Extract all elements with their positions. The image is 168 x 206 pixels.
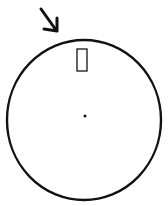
- center-dot: [84, 115, 87, 118]
- diagram-svg: [0, 0, 168, 206]
- dial-circle: [7, 40, 161, 200]
- dial-diagram: [0, 0, 168, 206]
- rotation-arrow-icon: [41, 9, 57, 31]
- dial-indicator-mark: [77, 49, 87, 71]
